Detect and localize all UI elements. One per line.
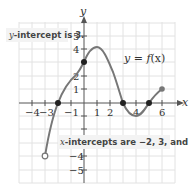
- x-intercept-annotation: x-intercepts are −2, 3, and 5.: [60, 137, 190, 147]
- y-tick-label: 1: [73, 84, 79, 95]
- function-label: y = f(x): [123, 52, 165, 65]
- x-tick-label: 6: [159, 107, 165, 118]
- y-axis-label: y: [79, 5, 87, 18]
- x-tick-label: −1: [64, 107, 79, 118]
- function-graph: x y −4 −3 −1 1 2 4 6 5 4 2: [0, 0, 190, 191]
- closed-endpoint-marker: [159, 86, 165, 92]
- y-intercept-marker: [81, 59, 87, 65]
- y-tick-label: −4: [69, 151, 84, 162]
- y-tick-label: −5: [69, 165, 84, 176]
- x-tick-label: 2: [107, 107, 113, 118]
- x-tick-label: 1: [94, 107, 100, 118]
- open-endpoint-marker: [42, 153, 48, 159]
- x-axis-label: x: [182, 96, 189, 109]
- x-intercept-marker: [146, 100, 152, 106]
- x-intercept-marker: [55, 100, 61, 106]
- x-intercept-marker: [120, 100, 126, 106]
- x-tick-label: −4: [25, 107, 40, 118]
- y-tick-label: 4: [73, 44, 79, 55]
- x-tick-label: −3: [39, 107, 54, 118]
- y-intercept-annotation: y-intercept is 3.: [8, 30, 84, 40]
